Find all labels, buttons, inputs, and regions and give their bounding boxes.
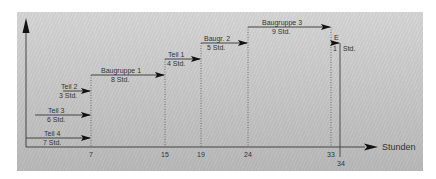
- task-baugruppe-3: Baugruppe 3 9 Std.: [248, 19, 330, 35]
- svg-text:8 Std.: 8 Std.: [111, 76, 129, 83]
- y-axis-arrow-icon: [23, 18, 30, 33]
- svg-text:Baugruppe 1: Baugruppe 1: [101, 67, 141, 75]
- task-e: E 1 Std.: [331, 34, 356, 52]
- svg-text:Teil 2: Teil 2: [61, 83, 77, 90]
- svg-text:Teil 4: Teil 4: [44, 130, 60, 137]
- gantt-diagram: Stunden 7 15 19 24 33 34 Teil 4 7 Std. T…: [0, 0, 436, 179]
- svg-text:E: E: [334, 34, 339, 41]
- x-tick-labels: 7 15 19 24 33 34: [89, 151, 345, 167]
- task-teil-1: Teil 1 4 Std.: [165, 51, 200, 67]
- task-teil-2: Teil 2 3 Std.: [59, 83, 90, 99]
- x-axis: Stunden: [26, 142, 416, 152]
- svg-text:5 Std.: 5 Std.: [207, 44, 225, 51]
- svg-text:3 Std.: 3 Std.: [59, 92, 77, 99]
- svg-text:9 Std.: 9 Std.: [272, 28, 290, 35]
- svg-text:15: 15: [161, 151, 169, 158]
- svg-text:Teil 1: Teil 1: [168, 51, 184, 58]
- task-baugruppe-1: Baugruppe 1 8 Std.: [91, 67, 164, 83]
- svg-text:Baugruppe 3: Baugruppe 3: [262, 19, 302, 27]
- x-axis-label: Stunden: [382, 142, 416, 152]
- svg-text:19: 19: [197, 151, 205, 158]
- svg-text:6 Std.: 6 Std.: [47, 116, 65, 123]
- task-teil-4: Teil 4 7 Std.: [26, 130, 90, 146]
- svg-text:Std.: Std.: [343, 45, 356, 52]
- svg-text:1: 1: [333, 45, 337, 52]
- svg-text:Baugr. 2: Baugr. 2: [204, 35, 230, 43]
- y-axis: [23, 18, 30, 147]
- task-baugr-2: Baugr. 2 5 Std.: [201, 35, 247, 51]
- svg-text:34: 34: [337, 160, 345, 167]
- svg-text:33: 33: [327, 151, 335, 158]
- svg-text:4 Std.: 4 Std.: [167, 60, 185, 67]
- x-axis-arrow-icon: [364, 144, 378, 151]
- svg-text:24: 24: [244, 151, 252, 158]
- task-teil-3: Teil 3 6 Std.: [35, 107, 90, 123]
- svg-text:Teil 3: Teil 3: [48, 107, 64, 114]
- svg-text:7 Std.: 7 Std.: [43, 139, 61, 146]
- svg-text:7: 7: [89, 151, 93, 158]
